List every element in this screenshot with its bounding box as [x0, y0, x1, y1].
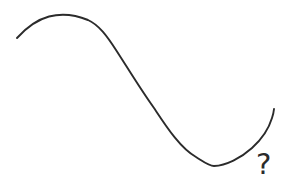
- sketch-canvas: ?: [0, 0, 291, 188]
- s-curve-path: [17, 15, 274, 166]
- question-mark-annotation: ?: [256, 150, 271, 179]
- s-curve-drawing: [0, 0, 291, 188]
